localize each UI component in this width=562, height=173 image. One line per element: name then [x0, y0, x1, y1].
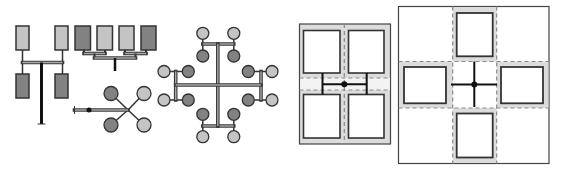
floorplan-2x2-diagram: [300, 24, 391, 144]
floorplan-cross-diagram: [399, 7, 550, 164]
unit-light: [16, 26, 29, 50]
room: [349, 31, 385, 74]
node-dark: [228, 108, 240, 120]
room: [457, 114, 493, 158]
node-light: [266, 66, 278, 78]
node-dark: [182, 66, 194, 78]
hub-dot: [471, 82, 477, 88]
node-light: [228, 131, 240, 143]
node-dark: [242, 66, 254, 78]
node-dark: [228, 50, 240, 62]
node-light: [137, 118, 151, 132]
node-dark: [104, 118, 118, 132]
room: [304, 95, 341, 139]
unit-dark: [16, 74, 29, 98]
diagram-canvas: [0, 0, 562, 173]
node-dark: [197, 50, 209, 62]
node-light: [228, 27, 240, 39]
node-dark: [182, 94, 194, 106]
unit-light: [97, 26, 113, 50]
room: [349, 95, 385, 139]
node-light: [137, 87, 151, 101]
hub-dot: [341, 81, 347, 87]
unit-light: [55, 26, 68, 50]
node-light: [197, 27, 209, 39]
node-light: [197, 131, 209, 143]
node-dark: [242, 94, 254, 106]
node-dark: [104, 87, 118, 101]
unit-dark: [55, 74, 68, 98]
unit-dark: [75, 26, 91, 50]
unit-light: [119, 26, 134, 50]
room: [501, 67, 543, 103]
room: [457, 13, 493, 56]
room: [304, 31, 341, 74]
node-light: [158, 94, 170, 106]
diagram-figure: [0, 0, 562, 173]
junction-dot: [87, 108, 92, 113]
node-light: [266, 94, 278, 106]
node-dark: [197, 108, 209, 120]
room: [404, 67, 446, 103]
unit-dark: [141, 26, 156, 50]
node-light: [158, 66, 170, 78]
